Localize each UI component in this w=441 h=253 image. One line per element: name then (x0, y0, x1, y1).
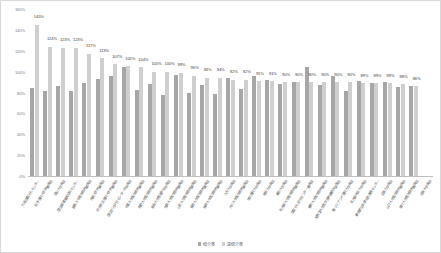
bar-series-2 (374, 83, 378, 176)
bar-series-1 (200, 85, 204, 176)
bar-value-label: 92% (243, 69, 251, 74)
legend-swatch-icon (222, 242, 225, 245)
legend-item[interactable]: 逆紹介率 (222, 241, 243, 247)
y-axis-tick: 100% (15, 69, 25, 74)
bar-group: 107% (109, 9, 119, 176)
bar-group: 88% (396, 9, 406, 176)
bar-value-label: 90% (321, 72, 329, 77)
bar-value-label: 94% (217, 67, 225, 72)
bar-series-1 (226, 78, 230, 176)
legend-label: 逆紹介率 (227, 241, 243, 247)
legend-item[interactable]: 紹介率 (198, 241, 215, 247)
bar-series-1 (122, 67, 126, 176)
bar-group: 86% (409, 9, 419, 176)
bar-group: 123% (69, 9, 79, 176)
bar-group: 99% (174, 9, 184, 176)
bar-group: 90% (292, 9, 302, 176)
bar-series-2 (139, 67, 143, 176)
bar-series-2 (414, 86, 418, 176)
y-axis: 160%140%120%100%80%60%40%20%0% (1, 9, 28, 177)
bar-series-1 (318, 85, 322, 176)
y-axis-tick: 20% (17, 153, 25, 158)
bar-group: 100% (148, 9, 158, 176)
bar-series-2 (205, 78, 209, 176)
bar-value-label: 90% (282, 72, 290, 77)
bar-group: 91% (265, 9, 275, 176)
bar-series-2 (283, 82, 287, 176)
bar-group: 90% (278, 9, 288, 176)
bar-series-2 (61, 48, 65, 176)
bar-series-1 (252, 76, 256, 176)
bar-group: 89% (383, 9, 393, 176)
bar-group: 94% (213, 9, 223, 176)
bar-series-2 (257, 81, 261, 176)
bar-value-label: 86% (413, 76, 421, 81)
y-axis-tick: 0% (19, 174, 25, 179)
bar-value-label: 90% (308, 72, 316, 77)
bar-group: 96% (187, 9, 197, 176)
bar-series-1 (82, 83, 86, 176)
bar-series-2 (244, 80, 248, 176)
bar-group: 90% (305, 9, 315, 176)
y-axis-tick: 160% (15, 7, 25, 12)
y-axis-tick: 80% (17, 90, 25, 95)
bar-series-1 (265, 80, 269, 176)
bar-value-label: 91% (256, 71, 264, 76)
bar-series-1 (69, 91, 73, 176)
bar-series-1 (109, 76, 113, 176)
bar-series-2 (87, 54, 91, 176)
bar-value-label: 90% (334, 72, 342, 77)
bar-series-2 (348, 82, 352, 176)
bar-value-label: 96% (191, 65, 199, 70)
bar-value-label: 91% (269, 71, 277, 76)
bar-series-2 (309, 82, 313, 176)
bar-group: 89% (370, 9, 380, 176)
bar-group: 90% (344, 9, 354, 176)
bar-series-2 (296, 82, 300, 176)
bar-series-2 (322, 82, 326, 176)
bar-series-1 (331, 76, 335, 176)
legend-label: 紹介率 (203, 241, 215, 247)
chart-legend: 紹介率逆紹介率 (1, 241, 440, 247)
y-axis-tick: 40% (17, 132, 25, 137)
bar-group: 94% (200, 9, 210, 176)
bar-group (422, 9, 432, 176)
bar-series-2 (113, 64, 117, 176)
bar-value-label: 90% (295, 72, 303, 77)
bar-series-2 (74, 48, 78, 176)
bar-series-1 (161, 95, 165, 176)
x-axis-tick-label: 東京都立多摩総合医療センター (354, 179, 380, 217)
bar-group: 100% (161, 9, 171, 176)
bar-group: 91% (252, 9, 262, 176)
bar-series-1 (292, 82, 296, 176)
bar-group: 105% (122, 9, 132, 176)
bar-series-2 (270, 81, 274, 176)
bar-group: 145% (30, 9, 40, 176)
bar-series-2 (100, 58, 104, 176)
bar-series-1 (56, 86, 60, 176)
bar-series-2 (335, 82, 339, 176)
legend-swatch-icon (198, 242, 201, 245)
bar-value-label: 92% (230, 69, 238, 74)
bar-series-1 (187, 93, 191, 177)
bar-series-2 (401, 84, 405, 176)
bar-value-label: 88% (400, 74, 408, 79)
bar-group: 117% (82, 9, 92, 176)
bar-series-2 (48, 47, 52, 176)
bar-series-2 (361, 83, 365, 176)
bar-group: 89% (357, 9, 367, 176)
bar-group: 90% (318, 9, 328, 176)
bar-group: 92% (226, 9, 236, 176)
plot-area: 145%124%123%123%117%113%107%105%104%100%… (28, 9, 433, 177)
bar-series-1 (174, 75, 178, 176)
bar-series-1 (409, 86, 413, 176)
bar-series-2 (192, 76, 196, 176)
bar-series-1 (357, 81, 361, 176)
bar-series-2 (218, 78, 222, 176)
bar-series-2 (179, 73, 183, 176)
bar-value-label: 113% (99, 48, 109, 53)
bar-series-1 (305, 67, 309, 176)
bar-value-label: 99% (178, 62, 186, 67)
bar-group: 124% (43, 9, 53, 176)
bar-group: 113% (96, 9, 106, 176)
